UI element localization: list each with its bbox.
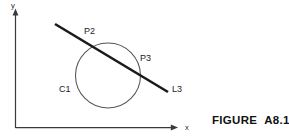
figure-a8-16: y x P2 P3 C1 L3 FIGUREA8.16 (0, 0, 289, 140)
x-axis-label: x (185, 124, 189, 132)
caption-word: FIGURE (212, 114, 257, 126)
x-axis-arrowhead-icon (171, 125, 178, 131)
y-axis-label: y (11, 2, 15, 10)
y-axis (13, 9, 19, 129)
x-axis (16, 125, 179, 131)
point-label-p3: P3 (140, 54, 151, 63)
line-label-l3: L3 (172, 85, 182, 94)
point-label-p2: P2 (84, 27, 95, 36)
caption-number: A8.16 (264, 114, 289, 126)
circle-label-c1: C1 (59, 85, 71, 94)
circle-c1 (76, 43, 141, 108)
figure-caption: FIGUREA8.16 (212, 114, 289, 126)
